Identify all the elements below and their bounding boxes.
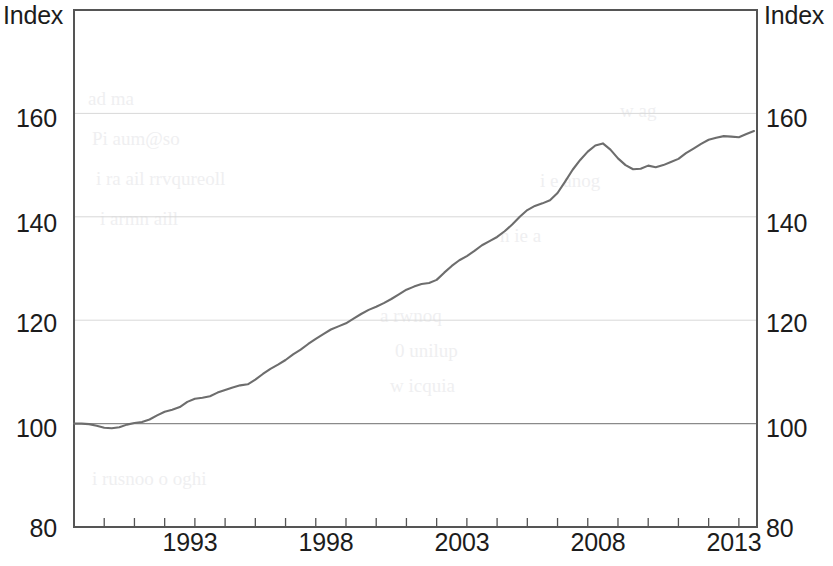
chart-figure: ad ma Pi aum@so i ra ail rrvqureoll i ar… [0, 0, 833, 566]
plot-frame [74, 10, 757, 527]
gridlines-group [74, 113, 757, 423]
x-minor-ticks-group [74, 518, 739, 527]
plot-area [0, 0, 833, 566]
frame-rect [74, 10, 757, 527]
data-line-series-index [74, 131, 754, 428]
